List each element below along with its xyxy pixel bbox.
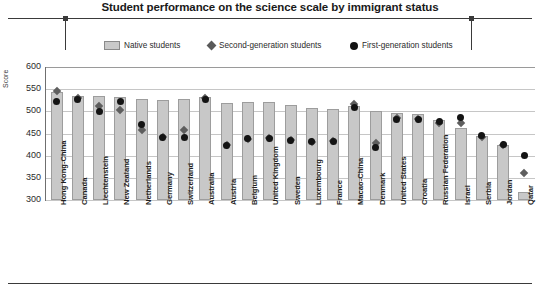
circle-marker [457,114,464,121]
diamond-marker [520,168,528,176]
y-axis-tick-label: 450 [5,128,41,138]
circle-marker [330,138,337,145]
x-axis-tick-label: Croatia [420,179,429,205]
x-axis-tick-label: Macao-China [356,158,365,205]
legend-item-second-generation-students: Second-generation students [208,41,321,50]
circle-marker [521,152,528,159]
x-axis-tick-label: Belgium [250,175,259,205]
circle-marker-icon [350,42,358,50]
bottom-rule [8,283,532,284]
y-axis-tick-label: 300 [5,194,41,204]
x-axis-tick-label: Liechtenstein [101,156,110,205]
chart-legend: Native students Second-generation studen… [0,40,540,54]
circle-marker [223,142,230,149]
circle-marker [500,141,507,148]
circle-marker [415,116,422,123]
y-axis-tick-label: 550 [5,83,41,93]
x-axis-tick-label: Qatar [526,185,535,205]
x-axis-tick-label: Hong Kong-China [59,140,68,205]
legend-label: Native students [124,41,180,50]
x-axis-tick-label: Jordan [505,180,514,205]
legend-label: Second-generation students [219,41,321,50]
x-axis-tick-labels: Hong Kong-ChinaCanadaLiechtensteinNew Ze… [45,203,534,289]
legend-label: First-generation students [362,41,453,50]
chart-figure: Student performance on the science scale… [0,0,540,289]
diamond-marker-icon [207,41,217,51]
x-axis-tick-label: Sweden [293,176,302,205]
circle-marker [308,138,315,145]
x-axis-tick-label: Austria [229,179,238,205]
y-axis-tick-label: 500 [5,105,41,115]
x-axis-tick-label: United States [399,156,408,205]
gridline [46,67,535,68]
legend-item-first-generation-students: First-generation students [350,41,453,50]
circle-marker [436,118,443,125]
plot-area: 300350400450500550600 [45,67,535,201]
legend-item-native-students: Native students [104,41,180,50]
x-axis-tick-label: Canada [80,178,89,205]
x-axis-tick-label: Israel [463,185,472,205]
circle-marker [287,137,294,144]
x-axis-tick-label: Denmark [378,173,387,206]
bar-swatch-icon [104,41,120,50]
x-axis-tick-label: New Zealand [122,159,131,205]
x-axis-tick-label: Serbia [484,182,493,205]
x-axis-tick-label: France [335,180,344,205]
y-axis-tick-label: 350 [5,172,41,182]
x-axis-tick-label: Switzerland [186,163,195,205]
x-axis-tick-label: Netherlands [144,161,153,205]
circle-marker [117,98,124,105]
x-axis-tick-label: United Kingdom [271,146,280,205]
circle-marker [96,108,103,115]
y-axis-tick-label: 400 [5,150,41,160]
circle-marker [266,135,273,142]
y-axis-tick-label: 600 [5,61,41,71]
chart-title: Student performance on the science scale… [0,1,540,13]
gridline [46,200,535,201]
x-axis-tick-label: Germany [165,172,174,205]
x-axis-tick-label: Australia [207,173,216,206]
x-axis-tick-label: Luxembourg [314,159,323,205]
top-rule [8,18,532,19]
x-axis-tick-label: Russian Federation [441,135,450,205]
gridline [46,89,535,90]
